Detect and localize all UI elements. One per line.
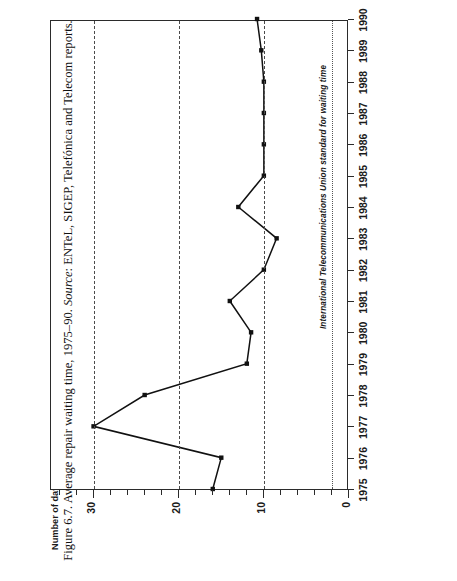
x-tick-label: 1976 <box>357 447 369 470</box>
x-tick <box>348 82 354 83</box>
y-tick-label: 20 <box>170 502 182 536</box>
x-tick <box>348 176 354 177</box>
y-tick-label: 0 <box>340 502 352 536</box>
caption-source-text: : ENTeL, SIGEP, Telefónica and Telecom r… <box>61 20 75 271</box>
caption-text: Figure 6.7. Average repair waiting time,… <box>61 20 76 560</box>
x-tick <box>348 458 354 459</box>
y-tick <box>263 490 264 498</box>
y-tick <box>348 490 349 498</box>
y-tick <box>178 490 179 498</box>
y-tick <box>331 490 332 495</box>
y-tick <box>127 490 128 495</box>
x-tick <box>348 332 354 333</box>
x-tick-label: 1979 <box>357 353 369 376</box>
x-tick <box>348 207 354 208</box>
x-tick-label: 1978 <box>357 384 369 407</box>
y-tick <box>314 490 315 495</box>
chart-canvas: Number of days International Telecommuni… <box>28 0 428 550</box>
x-tick <box>348 19 354 20</box>
x-tick <box>348 144 354 145</box>
data-point <box>245 361 249 365</box>
itu-standard-label: International Telecommunications Union s… <box>319 65 328 329</box>
figure-caption: Figure 6.7. Average repair waiting time,… <box>48 0 88 581</box>
x-tick-label: 1975 <box>357 478 369 501</box>
y-tick <box>229 490 230 495</box>
x-tick <box>348 426 354 427</box>
y-tick <box>297 490 298 495</box>
caption-source-label: Source <box>61 271 75 306</box>
itu-standard-line <box>332 21 333 489</box>
gridline-20 <box>179 21 180 489</box>
gridline-10 <box>264 21 265 489</box>
data-point <box>274 236 278 240</box>
x-tick <box>348 113 354 114</box>
x-tick-label: 1986 <box>357 134 369 157</box>
x-tick-label: 1984 <box>357 196 369 219</box>
y-tick <box>195 490 196 495</box>
data-point <box>228 299 232 303</box>
data-point <box>259 48 263 52</box>
x-tick <box>348 301 354 302</box>
y-tick <box>246 490 247 495</box>
x-tick <box>348 50 354 51</box>
data-point <box>142 393 146 397</box>
data-point <box>249 330 253 334</box>
y-tick <box>144 490 145 495</box>
y-tick <box>110 490 111 495</box>
plot-area: International Telecommunications Union s… <box>50 20 348 490</box>
x-tick-label: 1990 <box>357 8 369 31</box>
data-point <box>255 17 259 21</box>
x-tick <box>348 364 354 365</box>
x-tick <box>348 238 354 239</box>
figure-container: Number of days International Telecommuni… <box>0 0 457 581</box>
x-tick-label: 1985 <box>357 165 369 188</box>
y-tick-label: 10 <box>255 502 267 536</box>
gridline-30 <box>94 21 95 489</box>
x-tick-label: 1989 <box>357 40 369 63</box>
x-tick-label: 1980 <box>357 322 369 345</box>
data-point <box>236 205 240 209</box>
y-tick <box>280 490 281 495</box>
data-point <box>219 455 223 459</box>
y-tick <box>93 490 94 498</box>
x-tick-label: 1988 <box>357 71 369 94</box>
x-tick <box>348 395 354 396</box>
x-tick-label: 1981 <box>357 290 369 313</box>
x-tick-label: 1987 <box>357 102 369 125</box>
x-tick <box>348 270 354 271</box>
caption-prefix: Figure 6.7. Average repair waiting time,… <box>61 306 75 561</box>
x-tick-label: 1977 <box>357 416 369 439</box>
x-tick <box>348 489 354 490</box>
series-line <box>51 19 349 489</box>
y-tick <box>161 490 162 495</box>
y-tick <box>212 490 213 495</box>
x-tick-label: 1983 <box>357 228 369 251</box>
x-tick-label: 1982 <box>357 259 369 282</box>
